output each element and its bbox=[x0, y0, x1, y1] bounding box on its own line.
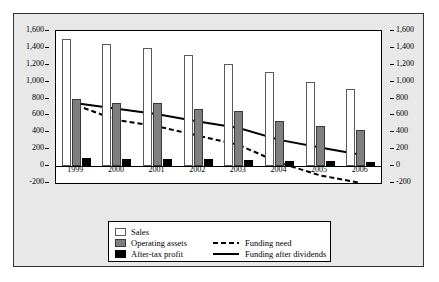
right-axis-tick-label: 1,200 bbox=[396, 60, 414, 68]
right-axis-tick-mark bbox=[390, 131, 394, 132]
x-axis-labels: 19992000200120022003200420052006 bbox=[55, 165, 382, 177]
chart-figure: 1,6001,4001,2001,0008006004002000-200 1,… bbox=[0, 0, 439, 282]
right-axis-tick-mark bbox=[390, 64, 394, 65]
right-axis-tick-label: 800 bbox=[396, 94, 408, 102]
right-axis-tick-label: 1,600 bbox=[396, 26, 414, 34]
chart-legend: Sales Operating assets After-tax profit … bbox=[108, 221, 331, 262]
legend-item-funding-need: Funding need bbox=[213, 237, 326, 248]
left-axis-tick-label: 400 bbox=[32, 127, 44, 135]
x-axis-label: 2005 bbox=[299, 165, 340, 174]
left-axis-tick-label: 0 bbox=[40, 161, 44, 169]
bar-assets-1999 bbox=[72, 99, 81, 167]
right-axis-tick-mark bbox=[390, 98, 394, 99]
bar-assets-2000 bbox=[112, 103, 121, 166]
bar-sales-2006 bbox=[346, 89, 355, 166]
left-axis-tick-mark bbox=[45, 131, 49, 132]
legend-dashed-line-icon bbox=[213, 239, 239, 247]
right-axis-tick-label: 400 bbox=[396, 127, 408, 135]
plot-area bbox=[55, 30, 382, 184]
left-axis-tick-mark bbox=[45, 182, 49, 183]
right-axis-tick-label: 200 bbox=[396, 144, 408, 152]
left-axis-tick-mark bbox=[45, 114, 49, 115]
legend-column-bars: Sales Operating assets After-tax profit bbox=[115, 226, 187, 259]
bar-sales-2005 bbox=[306, 82, 315, 166]
x-axis-label: 2001 bbox=[136, 165, 177, 174]
left-axis-tick-label: 200 bbox=[32, 144, 44, 152]
left-axis-tick-mark bbox=[45, 148, 49, 149]
legend-item-funding-after-dividends: Funding after dividends bbox=[213, 248, 326, 259]
left-axis-tick-label: 600 bbox=[32, 110, 44, 118]
legend-label-sales: Sales bbox=[131, 227, 149, 237]
right-axis-tick-mark bbox=[390, 81, 394, 82]
right-axis-tick-label: 1,000 bbox=[396, 77, 414, 85]
bar-sales-2001 bbox=[143, 48, 152, 166]
legend-solid-line-icon bbox=[213, 250, 239, 258]
left-axis-tick-label: 800 bbox=[32, 94, 44, 102]
bar-assets-2006 bbox=[356, 130, 365, 166]
bar-sales-1999 bbox=[62, 39, 71, 166]
left-axis-tick-mark bbox=[45, 47, 49, 48]
right-axis-tick-mark bbox=[390, 182, 394, 183]
right-axis-tick-mark bbox=[390, 165, 394, 166]
x-axis-label: 2004 bbox=[258, 165, 299, 174]
bar-assets-2004 bbox=[275, 121, 284, 166]
legend-label-funding-need: Funding need bbox=[245, 238, 292, 248]
right-axis-tick-mark bbox=[390, 47, 394, 48]
legend-swatch-after-tax-profit-icon bbox=[115, 250, 126, 258]
left-axis-tick-mark bbox=[45, 81, 49, 82]
legend-swatch-sales-icon bbox=[115, 228, 126, 236]
legend-item-operating-assets: Operating assets bbox=[115, 237, 187, 248]
left-axis-tick-mark bbox=[45, 98, 49, 99]
right-axis-tick-label: -200 bbox=[396, 178, 411, 186]
legend-swatch-operating-assets-icon bbox=[115, 239, 126, 247]
left-axis-tick-mark bbox=[45, 165, 49, 166]
left-axis-tick-mark bbox=[45, 30, 49, 31]
right-axis-tick-mark bbox=[390, 30, 394, 31]
left-axis-tick-label: 1,600 bbox=[26, 26, 44, 34]
left-axis: 1,6001,4001,2001,0008006004002000-200 bbox=[14, 30, 50, 184]
right-axis-tick-label: 600 bbox=[396, 110, 408, 118]
bar-sales-2004 bbox=[265, 72, 274, 166]
legend-label-funding-after-dividends: Funding after dividends bbox=[245, 249, 326, 259]
left-axis-tick-label: 1,400 bbox=[26, 43, 44, 51]
right-axis-tick-mark bbox=[390, 148, 394, 149]
legend-item-after-tax-profit: After-tax profit bbox=[115, 248, 187, 259]
x-axis-label: 2003 bbox=[218, 165, 259, 174]
bar-sales-2002 bbox=[184, 55, 193, 166]
x-axis-label: 2002 bbox=[177, 165, 218, 174]
plot-inner bbox=[56, 31, 381, 183]
left-axis-tick-label: -200 bbox=[29, 178, 44, 186]
bar-assets-2003 bbox=[234, 111, 243, 166]
right-axis: 1,6001,4001,2001,0008006004002000-200 bbox=[389, 30, 425, 184]
x-axis-label: 2000 bbox=[96, 165, 137, 174]
right-axis-tick-label: 1,400 bbox=[396, 43, 414, 51]
right-axis-tick-mark bbox=[390, 114, 394, 115]
bar-assets-2002 bbox=[194, 109, 203, 166]
bar-assets-2001 bbox=[153, 103, 162, 166]
left-axis-tick-mark bbox=[45, 64, 49, 65]
right-axis-tick-label: 0 bbox=[396, 161, 400, 169]
legend-label-after-tax-profit: After-tax profit bbox=[131, 249, 183, 259]
left-axis-tick-label: 1,000 bbox=[26, 77, 44, 85]
legend-item-sales: Sales bbox=[115, 226, 187, 237]
bar-sales-2000 bbox=[102, 44, 111, 166]
legend-label-operating-assets: Operating assets bbox=[131, 238, 187, 248]
x-axis-label: 1999 bbox=[55, 165, 96, 174]
bar-assets-2005 bbox=[316, 126, 325, 167]
left-axis-tick-label: 1,200 bbox=[26, 60, 44, 68]
bar-sales-2003 bbox=[224, 64, 233, 166]
legend-column-lines: Funding need Funding after dividends bbox=[213, 226, 326, 259]
x-axis-label: 2006 bbox=[339, 165, 380, 174]
